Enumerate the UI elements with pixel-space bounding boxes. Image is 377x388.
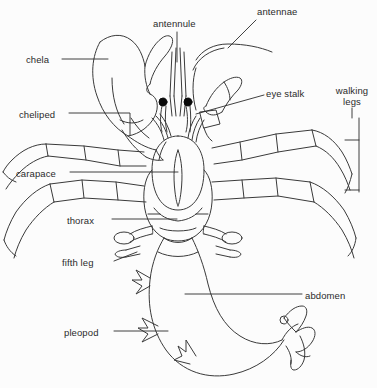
label-pleopod: pleopod [64, 327, 99, 338]
fifth-leg-right [203, 226, 242, 257]
leader-antennae [228, 20, 256, 48]
crab-line-art [0, 0, 377, 388]
walking-legs-bracket [345, 108, 359, 192]
label-thorax: thorax [67, 215, 94, 226]
label-antennule: antennule [153, 18, 196, 29]
antennule-pair [170, 48, 186, 116]
fifth-leg-left [114, 226, 153, 257]
abdomen-shape [149, 238, 284, 376]
uropod-tail-fan [280, 306, 315, 370]
pleopod-1 [132, 270, 150, 294]
label-walking-legs: walking legs [329, 85, 375, 107]
walking-leg-right-1 [212, 130, 352, 193]
label-antennae: antennae [257, 6, 297, 17]
eye-left [159, 98, 167, 106]
label-abdomen: abdomen [305, 290, 345, 301]
label-eye-stalk: eye stalk [266, 88, 304, 99]
eye-right [184, 98, 192, 106]
walking-leg-right-2 [212, 178, 356, 258]
antennae-pair [193, 44, 272, 115]
label-chela: chela [26, 54, 49, 65]
anatomy-diagram: chela antennule antennae eye stalk walki… [0, 0, 377, 388]
walking-leg-left-1 [3, 144, 146, 189]
label-cheliped: cheliped [19, 109, 55, 120]
maxilliped-fan [152, 114, 204, 142]
pleopod-3 [174, 340, 196, 364]
label-fifth-leg: fifth leg [62, 257, 94, 268]
label-carapace: carapace [16, 168, 56, 179]
carapace-shape [152, 136, 204, 210]
